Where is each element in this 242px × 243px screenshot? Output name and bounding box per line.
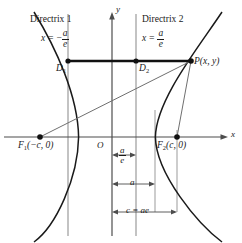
point-d1-letter: D bbox=[56, 63, 63, 73]
point-f2-dot bbox=[174, 134, 180, 140]
directrix-1-denominator: e bbox=[62, 40, 69, 50]
origin-label: O bbox=[97, 141, 104, 150]
segment-f2-to-p bbox=[177, 61, 191, 137]
measure-a-over-e-fraction: ae bbox=[119, 146, 126, 165]
measure-a-label: a bbox=[130, 178, 135, 187]
hyperbola-right-branch bbox=[155, 12, 222, 242]
point-f2-coords: (c, 0) bbox=[166, 140, 186, 150]
point-d2-label: D2 bbox=[139, 64, 149, 75]
point-f2-label: F2(c, 0) bbox=[157, 141, 186, 152]
measure-a-over-e-label: ae bbox=[119, 146, 126, 165]
measure-c-label: c = ae bbox=[126, 206, 149, 215]
directrix-2-equation: x = ae bbox=[142, 29, 164, 49]
x-axis-label: x bbox=[231, 130, 235, 139]
y-axis-arrowhead bbox=[109, 12, 115, 20]
hyperbola-directrix-figure: Directrix 1 x = −ae Directrix 2 x = ae y… bbox=[0, 0, 242, 243]
point-f1-dot bbox=[37, 134, 43, 140]
point-d2-letter: D bbox=[139, 63, 146, 73]
directrix-2-fraction: ae bbox=[157, 29, 164, 49]
directrix-1-equation: x = −ae bbox=[41, 29, 69, 49]
directrix-1-title: Directrix 1 bbox=[30, 15, 71, 25]
directrix-2-title: Directrix 2 bbox=[142, 15, 183, 25]
directrix-1-equation-lhs: x = bbox=[41, 33, 54, 43]
point-d1-dot bbox=[65, 58, 70, 63]
directrix-2-denominator: e bbox=[157, 40, 164, 50]
point-d1-subscript: 1 bbox=[63, 67, 66, 74]
y-axis-label: y bbox=[116, 5, 120, 14]
point-d1-label: D1 bbox=[56, 64, 66, 75]
x-axis-arrowhead bbox=[221, 134, 229, 140]
measure-a-over-e-denominator: e bbox=[119, 156, 126, 165]
directrix-1-fraction: ae bbox=[62, 29, 69, 49]
point-f1-coords: (−c, 0) bbox=[27, 140, 53, 150]
point-p-label: P(x, y) bbox=[194, 57, 219, 67]
point-d2-dot bbox=[133, 58, 138, 63]
figure-canvas bbox=[0, 0, 242, 243]
point-f1-label: F1(−c, 0) bbox=[18, 141, 54, 152]
directrix-2-equation-lhs: x = bbox=[142, 33, 155, 43]
point-d2-subscript: 2 bbox=[146, 67, 149, 74]
point-p-dot bbox=[188, 58, 194, 64]
